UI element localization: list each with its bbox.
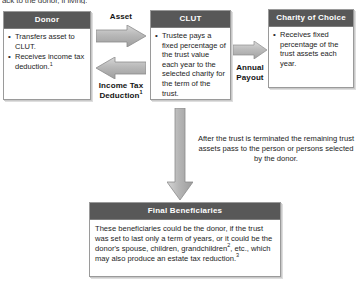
donor-bullet-1: Transfers asset to CLUT. xyxy=(15,32,86,51)
income-tax-deduction-arrow-label: Income Tax Deduction1 xyxy=(93,81,149,100)
arrow-down-icon xyxy=(167,108,193,200)
cut-off-top-line: ack to the donor, if living: xyxy=(2,0,87,4)
after-trust-terminated-note: After the trust is terminated the remain… xyxy=(196,134,356,164)
final-beneficiaries-body: These beneficiaries could be the donor, … xyxy=(90,220,280,267)
final-beneficiaries-title: Final Beneficiaries xyxy=(90,203,280,220)
arrow-left-icon xyxy=(96,57,146,79)
arrow-right-icon xyxy=(96,25,146,47)
list-item: • Transfers asset to CLUT. xyxy=(8,32,86,51)
annual-payout-arrow-label: Annual Payout xyxy=(231,63,269,82)
asset-arrow-label: Asset xyxy=(96,12,146,22)
bullet-dot-icon: • xyxy=(8,52,15,62)
final-beneficiaries-box: Final Beneficiaries These beneficiaries … xyxy=(89,202,281,277)
charity-bullet-1: Receives fixed percentage of the trust a… xyxy=(280,30,349,68)
arrow-right-icon xyxy=(233,41,267,59)
clut-box-body: • Trustee pays a fixed percentage of the… xyxy=(151,28,230,100)
list-item: • Receives fixed percentage of the trust… xyxy=(273,30,349,68)
annual-payout-line1: Annual xyxy=(236,63,264,72)
bullet-dot-icon: • xyxy=(273,30,280,40)
charity-of-choice-box: Charity of Choice • Receives fixed perce… xyxy=(268,9,354,88)
clut-bullet-1: Trustee pays a fixed percentage of the t… xyxy=(162,31,226,98)
donor-box: Donor • Transfers asset to CLUT. • Recei… xyxy=(3,11,91,100)
charity-box-body: • Receives fixed percentage of the trust… xyxy=(269,27,353,71)
clut-box-title: CLUT xyxy=(151,11,230,28)
donor-box-body: • Transfers asset to CLUT. • Receives in… xyxy=(4,29,90,74)
list-item: • Receives income tax deduction.1 xyxy=(8,52,86,71)
income-tax-label-superscript: 1 xyxy=(139,89,142,95)
income-tax-label-line1: Income Tax xyxy=(99,81,143,90)
donor-box-title: Donor xyxy=(4,12,90,29)
diagram-canvas: ack to the donor, if living: Donor • Tra… xyxy=(0,0,358,282)
donor-bullet-2-superscript: 1 xyxy=(50,60,53,66)
bullet-dot-icon: • xyxy=(155,31,162,41)
bullet-dot-icon: • xyxy=(8,32,15,42)
income-tax-label-line2: Deduction xyxy=(99,91,139,100)
list-item: • Trustee pays a fixed percentage of the… xyxy=(155,31,226,98)
clut-box: CLUT • Trustee pays a fixed percentage o… xyxy=(150,10,231,100)
donor-bullet-2: Receives income tax deduction.1 xyxy=(15,52,86,71)
final-beneficiaries-superscript-2: 3 xyxy=(236,252,239,258)
charity-box-title: Charity of Choice xyxy=(269,10,353,27)
annual-payout-line2: Payout xyxy=(236,73,263,82)
